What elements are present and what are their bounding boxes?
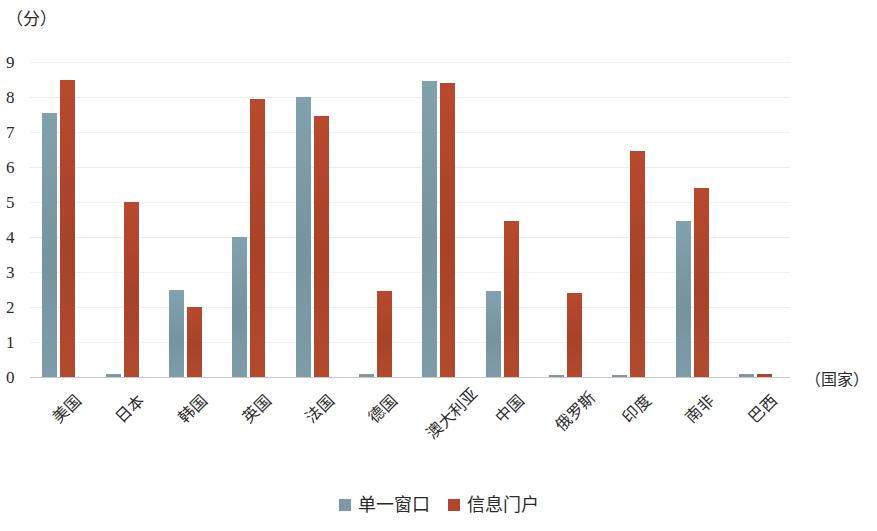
gridline-6: [30, 167, 790, 168]
bar-韩国-信息门户: [187, 307, 202, 377]
y-axis-tick-2: 2: [6, 299, 24, 316]
y-axis-tick-0: 0: [6, 369, 24, 386]
bar-澳大利亚-单一窗口: [422, 81, 437, 377]
y-axis-tick-3: 3: [6, 264, 24, 281]
x-axis-category-labels: 美国日本韩国英国法国德国澳大利亚中国俄罗斯印度南非巴西: [30, 381, 790, 481]
x-axis-label-俄罗斯: 俄罗斯: [549, 385, 600, 436]
bar-俄罗斯-信息门户: [567, 293, 582, 377]
legend-item-单一窗口[interactable]: 单一窗口: [339, 496, 430, 514]
x-axis-label-美国: 美国: [46, 388, 86, 428]
y-axis-tick-8: 8: [6, 89, 24, 106]
x-axis-label-韩国: 韩国: [172, 388, 212, 428]
bar-英国-信息门户: [250, 99, 265, 377]
bar-中国-单一窗口: [486, 291, 501, 377]
gridline-8: [30, 97, 790, 98]
bar-印度-信息门户: [630, 151, 645, 377]
gridline-7: [30, 132, 790, 133]
y-axis-tick-6: 6: [6, 159, 24, 176]
bar-美国-单一窗口: [42, 113, 57, 377]
bar-南非-信息门户: [694, 188, 709, 377]
x-axis-label-法国: 法国: [299, 388, 339, 428]
y-axis-tick-7: 7: [6, 124, 24, 141]
bar-日本-信息门户: [124, 202, 139, 377]
x-axis-label-南非: 南非: [679, 388, 719, 428]
x-axis-unit-label: （国家）: [805, 366, 869, 390]
bar-美国-信息门户: [60, 80, 75, 378]
y-axis-tick-9: 9: [6, 54, 24, 71]
gridline-5: [30, 202, 790, 203]
chart-legend: 单一窗口信息门户: [0, 496, 877, 514]
x-axis-label-中国: 中国: [489, 388, 529, 428]
legend-item-信息门户[interactable]: 信息门户: [448, 496, 539, 514]
y-axis-unit-label: （分）: [6, 5, 57, 30]
x-axis-line: [30, 377, 790, 378]
bar-chart: （分） 9876543210 美国日本韩国英国法国德国澳大利亚中国俄罗斯印度南非…: [0, 0, 877, 531]
bar-韩国-单一窗口: [169, 290, 184, 378]
bar-南非-单一窗口: [676, 221, 691, 377]
bar-中国-信息门户: [504, 221, 519, 377]
legend-swatch-icon-单一窗口: [339, 499, 351, 511]
y-axis-tick-4: 4: [6, 229, 24, 246]
bar-英国-单一窗口: [232, 237, 247, 377]
x-axis-label-德国: 德国: [362, 388, 402, 428]
legend-label-单一窗口: 单一窗口: [358, 496, 430, 514]
x-axis-label-澳大利亚: 澳大利亚: [420, 382, 482, 444]
legend-swatch-icon-信息门户: [448, 499, 460, 511]
y-axis-tick-1: 1: [6, 334, 24, 351]
plot-area: [30, 62, 790, 377]
x-axis-label-日本: 日本: [109, 388, 149, 428]
x-axis-label-巴西: 巴西: [742, 388, 782, 428]
x-axis-label-印度: 印度: [616, 388, 656, 428]
bar-德国-信息门户: [377, 291, 392, 377]
y-axis-tick-5: 5: [6, 194, 24, 211]
bar-法国-单一窗口: [296, 97, 311, 377]
bar-法国-信息门户: [314, 116, 329, 377]
legend-label-信息门户: 信息门户: [467, 496, 539, 514]
gridline-9: [30, 62, 790, 63]
bar-澳大利亚-信息门户: [440, 83, 455, 377]
x-axis-label-英国: 英国: [236, 388, 276, 428]
